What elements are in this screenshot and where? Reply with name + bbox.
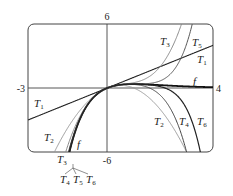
curve-label-t3: T3 (57, 153, 67, 167)
y-min-tick-label: -6 (103, 155, 111, 166)
curve-label-t5: T5 (73, 173, 83, 187)
y-max-tick-label: 6 (105, 11, 110, 22)
curve-label-t6: T6 (86, 173, 96, 187)
x-max-tick-label: 4 (216, 83, 221, 94)
taylor-polynomial-chart: 6 -6 -3 4 T3T5T1fT1T2fT2T4T6T3T4T5T6 (0, 0, 233, 196)
curve-label-t4: T4 (60, 173, 70, 187)
x-min-tick-label: -3 (17, 83, 25, 94)
